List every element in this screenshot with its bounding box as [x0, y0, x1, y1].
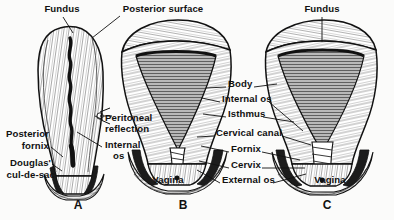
label-body: Body — [228, 78, 252, 89]
label-fundus-left: Fundus — [44, 3, 79, 14]
label-fornix: Fornix — [231, 143, 261, 154]
label-fundus-right: Fundus — [304, 3, 339, 14]
label-posterior-fornix-1: Posterior — [6, 128, 49, 139]
label-cervix: Cervix — [231, 159, 261, 170]
label-peritoneal-reflection-1: Peritoneal — [105, 112, 152, 123]
label-vagina-b: Vagina — [152, 174, 184, 185]
label-douglas-2: cul-de-sac — [7, 169, 55, 180]
figure-c-group — [266, 20, 378, 195]
leader-posterior-surface — [92, 16, 120, 38]
label-vagina-c: Vagina — [314, 174, 346, 185]
figure-label-a: A — [74, 198, 83, 212]
figure-label-c: C — [323, 198, 332, 212]
label-internal-os-left-1: Internal — [105, 139, 140, 150]
label-isthmus: Isthmus — [228, 108, 265, 119]
label-posterior-surface: Posterior surface — [123, 3, 204, 14]
label-internal-os-left-2: os — [113, 150, 124, 161]
label-peritoneal-reflection-2: reflection — [105, 123, 149, 134]
label-external-os: External os — [222, 174, 275, 185]
label-posterior-fornix-2: fornix — [22, 140, 49, 151]
figure-b-group — [122, 20, 232, 194]
label-cervical-canal: Cervical canal — [216, 127, 282, 138]
label-internal-os: Internal os — [222, 93, 272, 104]
label-douglas-1: Douglas' — [10, 157, 51, 168]
figure-label-b: B — [179, 198, 188, 212]
uterus-anatomy-illustration — [0, 0, 394, 220]
